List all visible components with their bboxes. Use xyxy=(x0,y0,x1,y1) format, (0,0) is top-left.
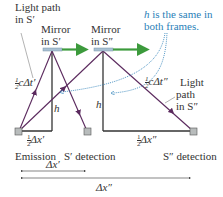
note-h-same-line2: both frames. xyxy=(144,21,199,32)
mirror-s-prime xyxy=(43,48,62,51)
label-mirror-s-double-prime-2: in S″ xyxy=(91,36,113,47)
label-mirror-s-double-prime-1: Mirror xyxy=(91,24,120,35)
light-path-s-double-prime xyxy=(19,51,193,131)
s-double-prime-detector xyxy=(190,128,197,135)
leader-light-path-s-double-prime xyxy=(165,97,175,103)
label-light-path-s-double-prime-2: path xyxy=(176,89,195,100)
label-half-c-dt-prime: 12cΔt′ xyxy=(15,77,35,90)
label-dx-prime: Δx′ xyxy=(46,159,60,170)
label-light-path-s-prime-1: Light path xyxy=(15,2,61,13)
label-s-double-prime-detection: S″ detection xyxy=(163,151,217,162)
label-light-path-s-double-prime-1: Light xyxy=(180,77,204,88)
label-half-c-dt-double-prime: 12cΔt″ xyxy=(145,76,167,89)
label-half-dx-double-prime: 12Δx″ xyxy=(137,134,156,147)
label-mirror-s-prime-2: in S′ xyxy=(41,36,61,47)
leader-light-path-s-prime xyxy=(21,33,33,78)
mirror-s-double-prime xyxy=(94,48,113,51)
note-h-same-line1: h is the same in xyxy=(144,9,212,20)
note-rest: is the same in xyxy=(150,8,213,20)
s-prime-detector xyxy=(84,128,91,135)
label-dx-double-prime: Δx″ xyxy=(96,182,112,193)
label-light-path-s-double-prime-3: in S″ xyxy=(176,101,198,112)
light-clock-diagram: Light path in S′ Mirror in S′ Mirror in … xyxy=(0,0,223,197)
emission-source xyxy=(15,128,22,135)
label-h-s-prime: h xyxy=(54,103,60,114)
label-s-prime-detection: S′ detection xyxy=(64,151,116,162)
label-light-path-s-prime-2: in S′ xyxy=(15,14,35,25)
label-half-dx-prime: 12Δx′ xyxy=(27,134,44,147)
label-h-s-double-prime: h xyxy=(96,99,102,110)
label-mirror-s-prime-1: Mirror xyxy=(41,24,70,35)
